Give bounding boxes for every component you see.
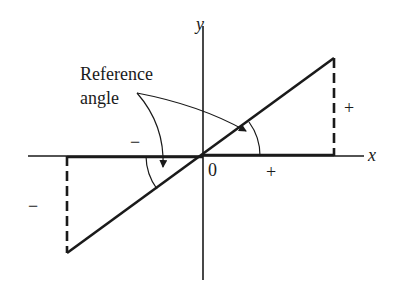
reference-label-line2: angle — [80, 88, 119, 108]
y-negative-sign: − — [28, 196, 38, 216]
x-axis-label: x — [367, 145, 376, 165]
reference-label-line1: Reference — [80, 64, 153, 84]
reference-angle-diagram: y x 0 Reference angle + − + − — [0, 0, 406, 297]
leader-arrow-right — [137, 93, 246, 131]
origin-label: 0 — [208, 160, 217, 180]
y-positive-sign: + — [344, 98, 354, 118]
right-angle-arc — [249, 122, 260, 156]
y-axis-label: y — [194, 14, 204, 34]
left-angle-arc — [146, 156, 157, 189]
x-positive-sign: + — [266, 162, 276, 182]
x-negative-sign: − — [130, 132, 140, 152]
